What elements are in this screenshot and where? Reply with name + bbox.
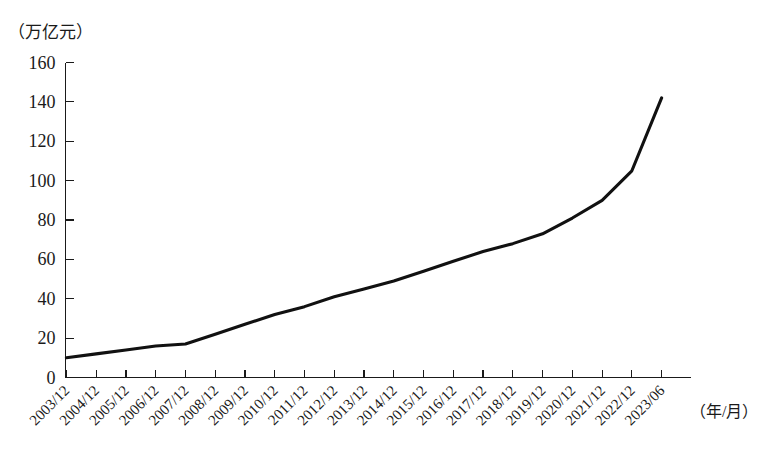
chart-axis-lines	[66, 63, 691, 378]
y-axis-tick-label: 20	[38, 328, 56, 348]
y-axis-ticks: 020406080100120140160	[29, 53, 74, 388]
chart-container: （万亿元） （年/月） 020406080100120140160 2003/1…	[0, 0, 760, 469]
y-axis-tick-label: 160	[29, 53, 56, 73]
y-axis-tick-label: 120	[29, 131, 56, 151]
x-axis-tick-labels: 2003/122004/122005/122006/122007/122008/…	[26, 382, 668, 428]
y-axis-tick-label: 140	[29, 92, 56, 112]
line-chart-plot: 020406080100120140160 2003/122004/122005…	[0, 0, 760, 469]
x-axis-ticks	[66, 370, 661, 378]
y-axis-tick-label: 60	[38, 249, 56, 269]
y-axis-tick-label: 100	[29, 171, 56, 191]
y-axis-tick-label: 80	[38, 210, 56, 230]
y-axis-tick-label: 0	[47, 368, 56, 388]
y-axis-tick-label: 40	[38, 289, 56, 309]
data-series-line	[66, 98, 661, 358]
